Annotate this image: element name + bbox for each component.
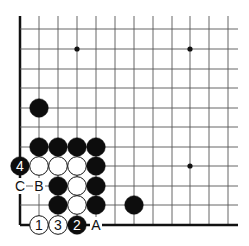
move-number: 3 [54,217,62,233]
black-stone [87,177,106,196]
point-label-a: A [91,217,101,233]
black-stone [30,99,49,118]
point-label-b: B [34,178,43,194]
move-number: 2 [73,217,81,233]
black-stone [68,138,87,157]
black-stone [125,196,144,215]
white-stone [49,157,68,176]
star-point-icon [187,163,192,168]
black-stone [87,196,106,215]
black-stone [49,138,68,157]
move-number: 4 [16,158,24,174]
black-stone [87,157,106,176]
black-stone [87,138,106,157]
star-point-icon [74,46,79,51]
black-stone-2: 2 [68,216,87,235]
star-point-icon [187,46,192,51]
go-board-diagram: 4132 CBA [0,0,249,246]
white-stone [68,157,87,176]
white-stone [30,157,49,176]
point-label-c: C [15,178,25,194]
white-stone-1: 1 [30,216,49,235]
black-stone [49,177,68,196]
white-stone [68,177,87,196]
move-number: 1 [35,217,43,233]
black-stone-4: 4 [11,157,30,176]
white-stone-3: 3 [49,216,68,235]
black-stone [49,196,68,215]
black-stone [30,138,49,157]
white-stone [68,196,87,215]
